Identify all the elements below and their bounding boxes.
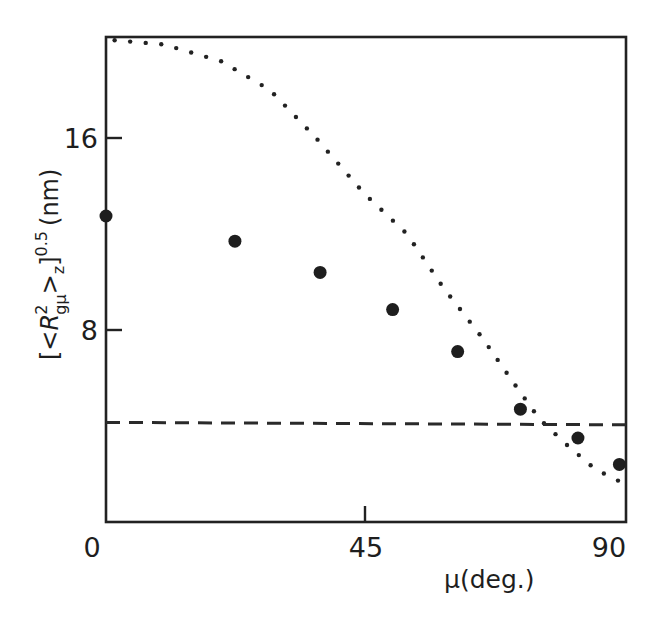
curve-dot (336, 161, 340, 165)
curve-dot (468, 319, 472, 323)
curve-dot (232, 67, 236, 71)
curve-dot (616, 478, 620, 482)
data-point (100, 210, 113, 223)
y-label-open: [< (36, 331, 64, 360)
x-tick-label-90: 90 (592, 532, 626, 563)
curve-dot (402, 229, 406, 233)
curve-dot (219, 59, 223, 63)
x-tick-label-0: 0 (83, 532, 100, 563)
curve-dot (259, 83, 263, 87)
chart: 0 45 90 16 8 μ(deg.) [<R2gμ>z]0.5(nm) (0, 0, 661, 623)
curve-dot (412, 242, 416, 246)
dashed-line-path (106, 422, 626, 424)
curve-dot (189, 50, 193, 54)
curve-dot (246, 75, 250, 79)
svg-text:[<R2gμ>z]0.5(nm): [<R2gμ>z]0.5(nm) (32, 169, 70, 360)
data-point (613, 458, 626, 471)
data-point (571, 432, 584, 445)
curve-dot (204, 55, 208, 59)
y-axis-label: [<R2gμ>z]0.5(nm) (32, 169, 70, 360)
y-label-bracket: ] (36, 256, 64, 265)
curve-dot (421, 255, 425, 259)
y-label-unit: (nm) (36, 169, 64, 226)
curve-dot (438, 282, 442, 286)
x-tick-label-45: 45 (349, 532, 383, 563)
curve-dot (379, 208, 383, 212)
y-label-sub-gmu: gμ (51, 294, 70, 314)
y-label-exp: 0.5 (32, 231, 51, 256)
curve-dot (357, 185, 361, 189)
data-point (451, 345, 464, 358)
curve-dot (159, 42, 163, 46)
y-label-sup2: 2 (32, 305, 51, 315)
curve-dot (430, 268, 434, 272)
curve-dot (602, 471, 606, 475)
data-points (100, 210, 626, 471)
dashed-line (106, 422, 626, 424)
data-point (228, 235, 241, 248)
curve-dot (128, 39, 132, 43)
y-label-close: > (36, 274, 64, 294)
curve-dot (294, 115, 298, 119)
curve-dot (144, 41, 148, 45)
curve-dot (532, 409, 536, 413)
y-tick-label-16: 16 (64, 123, 98, 154)
curve-dot (315, 137, 319, 141)
curve-dot (523, 396, 527, 400)
curve-dot (448, 294, 452, 298)
curve-dot (553, 432, 557, 436)
curve-dot (588, 463, 592, 467)
curve-dot (346, 173, 350, 177)
curve-dot (391, 218, 395, 222)
curve-dot (477, 332, 481, 336)
y-tick-label-8: 8 (81, 315, 98, 346)
curve-dot (305, 126, 309, 130)
curve-dot (577, 453, 581, 457)
curve-dot (495, 358, 499, 362)
data-point (314, 266, 327, 279)
y-label-R: R (36, 314, 64, 331)
curve-dot (272, 92, 276, 96)
curve-dot (458, 307, 462, 311)
dotted-curve (112, 38, 620, 483)
curve-dot (513, 383, 517, 387)
curve-dot (368, 197, 372, 201)
curve-dot (112, 38, 116, 42)
curve-dot (565, 443, 569, 447)
curve-dot (326, 149, 330, 153)
curve-dot (283, 103, 287, 107)
axis-ticks (106, 138, 365, 522)
data-point (514, 403, 527, 416)
curve-dot (504, 371, 508, 375)
curve-dot (174, 46, 178, 50)
data-point (386, 303, 399, 316)
x-axis-label: μ(deg.) (444, 565, 534, 594)
y-label-sub-z: z (49, 266, 68, 274)
plot-frame (106, 37, 626, 522)
curve-dot (487, 345, 491, 349)
